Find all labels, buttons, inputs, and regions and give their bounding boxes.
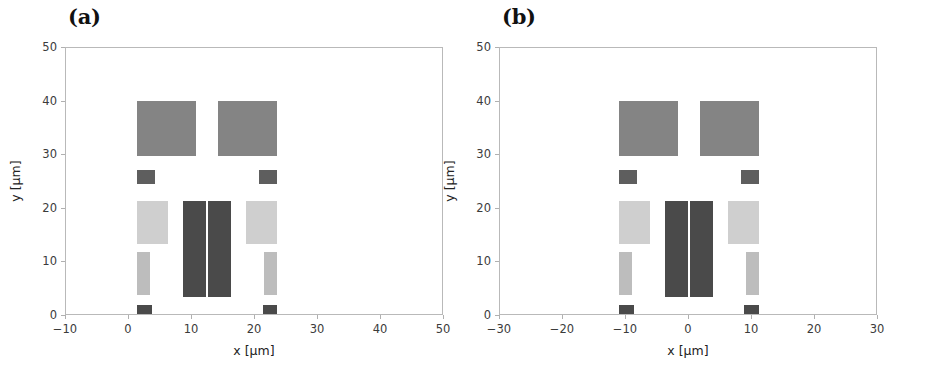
x-tick (128, 315, 129, 319)
y-tick-label: 50 (33, 40, 57, 54)
x-tick-label: 30 (870, 322, 885, 336)
panel-b-axes (499, 47, 877, 315)
y-tick (495, 47, 499, 48)
y-tick (61, 261, 65, 262)
patch-top-pad-left (619, 101, 678, 157)
patch-center-bar-right (208, 201, 231, 297)
x-tick-label: 0 (684, 322, 691, 336)
patch-contact-square-left (137, 170, 155, 184)
patch-bottom-square-left (619, 305, 633, 315)
x-tick (877, 315, 878, 319)
patch-strip-right (746, 252, 759, 295)
y-tick-label: 0 (467, 308, 491, 322)
x-tick-label: 40 (373, 322, 388, 336)
patch-top-pad-left (137, 101, 196, 157)
patch-center-bar-right (690, 201, 713, 297)
figure-container: (a) −100102030405001020304050x [µm]y [µm… (0, 0, 932, 365)
x-tick (65, 315, 66, 319)
y-tick (495, 154, 499, 155)
x-tick-label: 50 (436, 322, 451, 336)
y-tick-label: 40 (467, 94, 491, 108)
y-tick-label: 40 (33, 94, 57, 108)
x-tick-label: 10 (744, 322, 759, 336)
patch-side-pad-left (137, 201, 168, 244)
patch-center-bar-left (183, 201, 206, 297)
x-tick (688, 315, 689, 319)
panel-a-axes (65, 47, 443, 315)
y-tick (495, 208, 499, 209)
patch-strip-right (264, 252, 277, 295)
x-axis-title: x [µm] (667, 343, 708, 358)
y-tick-label: 0 (33, 308, 57, 322)
x-tick-label: 20 (247, 322, 262, 336)
x-tick-label: −10 (53, 322, 77, 336)
y-tick-label: 10 (467, 254, 491, 268)
y-tick-label: 30 (467, 147, 491, 161)
y-tick-label: 10 (33, 254, 57, 268)
x-tick-label: −10 (613, 322, 637, 336)
patch-side-pad-left (619, 201, 650, 244)
patch-strip-left (619, 252, 632, 295)
panel-b: (b) −30−20−10010203001020304050x [µm]y [… (466, 0, 932, 365)
patch-side-pad-right (728, 201, 759, 244)
patch-contact-square-right (259, 170, 277, 184)
y-tick (61, 101, 65, 102)
y-tick (61, 315, 65, 316)
y-axis-title: y [µm] (442, 160, 457, 201)
patch-contact-square-left (619, 170, 637, 184)
patch-contact-square-right (741, 170, 759, 184)
y-tick (495, 315, 499, 316)
patch-strip-left (137, 252, 150, 295)
x-tick (499, 315, 500, 319)
x-tick (443, 315, 444, 319)
panel-a-label: (a) (68, 4, 101, 29)
x-tick (191, 315, 192, 319)
patch-center-bar-left (665, 201, 688, 297)
patch-top-pad-right (218, 101, 277, 157)
x-tick (380, 315, 381, 319)
x-tick (254, 315, 255, 319)
y-tick-label: 20 (33, 201, 57, 215)
y-tick (61, 47, 65, 48)
x-tick (814, 315, 815, 319)
y-tick (61, 208, 65, 209)
patch-bottom-square-left (137, 305, 151, 315)
y-tick (495, 261, 499, 262)
y-tick (495, 101, 499, 102)
x-tick-label: 10 (184, 322, 199, 336)
x-tick (317, 315, 318, 319)
x-tick-label: −30 (487, 322, 511, 336)
x-tick (562, 315, 563, 319)
panel-a: (a) −100102030405001020304050x [µm]y [µm… (0, 0, 466, 365)
x-tick (625, 315, 626, 319)
x-tick-label: 20 (807, 322, 822, 336)
y-tick-label: 30 (33, 147, 57, 161)
y-tick-label: 50 (467, 40, 491, 54)
y-tick (61, 154, 65, 155)
x-tick-label: 0 (124, 322, 131, 336)
x-axis-title: x [µm] (233, 343, 274, 358)
panel-b-label: (b) (502, 4, 536, 29)
x-tick-label: −20 (550, 322, 574, 336)
y-tick-label: 20 (467, 201, 491, 215)
x-tick-label: 30 (310, 322, 325, 336)
x-tick (751, 315, 752, 319)
patch-top-pad-right (700, 101, 759, 157)
y-axis-title: y [µm] (8, 160, 23, 201)
patch-bottom-square-right (263, 305, 277, 315)
patch-side-pad-right (246, 201, 277, 244)
patch-bottom-square-right (744, 305, 758, 315)
